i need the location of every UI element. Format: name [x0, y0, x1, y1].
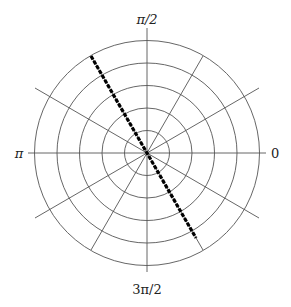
polar-diagram: 0 π/2 π 3π/2	[0, 0, 291, 307]
polar-grid: 0 π/2 π 3π/2	[0, 0, 291, 307]
spokes	[28, 28, 266, 272]
label-pi: π	[14, 146, 24, 161]
label-3pi-half: 3π/2	[132, 282, 161, 297]
label-pi-half: π/2	[135, 12, 157, 27]
dashed-line	[91, 56, 196, 238]
label-0: 0	[271, 146, 279, 161]
